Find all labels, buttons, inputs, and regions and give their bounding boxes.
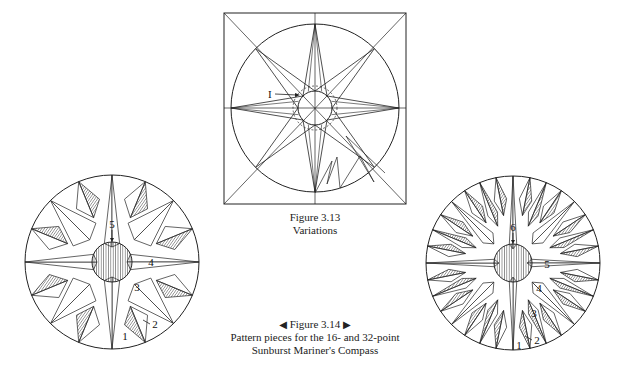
piece-label-5: 5 <box>109 218 115 230</box>
piece-label-6: 6 <box>510 221 516 233</box>
figure-3-14-title-row: ◀ Figure 3.14 ▶ <box>215 318 415 331</box>
piece-label-1: 1 <box>516 339 522 351</box>
piece-label-1: 1 <box>122 330 128 342</box>
right-triangle-icon: ▶ <box>343 318 351 331</box>
figure-3-14-description-2: Sunburst Mariner's Compass <box>215 344 415 357</box>
left-triangle-icon: ◀ <box>279 318 287 331</box>
figure-3-13-title: Figure 3.13 <box>265 211 365 224</box>
figure-3-13-caption: Figure 3.13 Variations <box>265 211 365 237</box>
figure-3-14-description-1: Pattern pieces for the 16- and 32-point <box>215 331 415 344</box>
figure-3-14-caption: ◀ Figure 3.14 ▶ Pattern pieces for the 1… <box>215 318 415 357</box>
piece-label-2: 2 <box>534 334 540 346</box>
piece-label-2: 2 <box>152 318 158 330</box>
piece-label-4: 4 <box>536 282 542 294</box>
piece-label-3: 3 <box>531 307 537 319</box>
compass-32-point-pattern: 654321 <box>426 176 600 351</box>
figure-3-14-title: Figure 3.14 <box>290 318 341 330</box>
figure-3-13-subtitle: Variations <box>265 224 365 237</box>
piece-label-4: 4 <box>148 256 154 268</box>
figure-3-13-variations-diagram: I <box>224 13 406 204</box>
piece-label-3: 3 <box>134 281 140 293</box>
label-i: I <box>268 88 272 100</box>
piece-label-5: 5 <box>544 258 550 270</box>
compass-16-point-pattern: 54321 <box>25 175 199 349</box>
